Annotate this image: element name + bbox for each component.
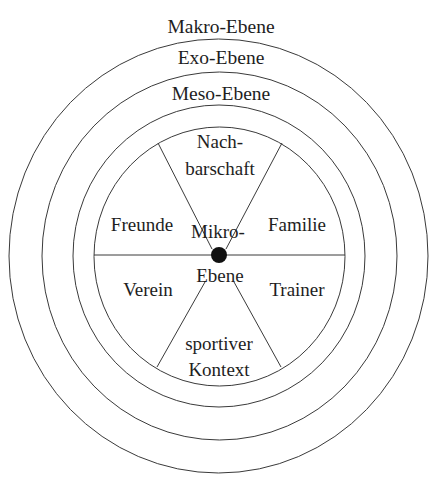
center-dot xyxy=(211,247,227,263)
segment-nachbarschaft-line2: barschaft xyxy=(185,158,255,179)
segment-familie: Familie xyxy=(268,214,326,235)
segment-nachbarschaft-line1: Nach- xyxy=(197,131,243,152)
meso-label: Meso-Ebene xyxy=(172,83,271,104)
makro-label: Makro-Ebene xyxy=(167,16,274,37)
segment-sportiver-kontext-line2: Kontext xyxy=(188,359,250,380)
ecological-model-diagram: Makro-Ebene Exo-Ebene Meso-Ebene Mikro- … xyxy=(0,0,441,484)
segment-freunde: Freunde xyxy=(111,214,173,235)
mikro-label-line2: Ebene xyxy=(196,265,243,286)
segment-sportiver-kontext-line1: sportiver xyxy=(185,333,253,354)
exo-label: Exo-Ebene xyxy=(178,47,265,68)
mikro-label-line1: Mikro- xyxy=(191,221,245,242)
segment-verein: Verein xyxy=(123,279,173,300)
segment-trainer: Trainer xyxy=(269,279,325,300)
